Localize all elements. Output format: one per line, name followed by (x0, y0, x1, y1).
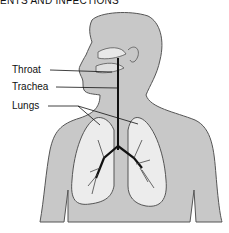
label-throat: Throat (12, 64, 41, 75)
label-trachea: Trachea (12, 81, 48, 92)
respiratory-diagram (0, 0, 229, 233)
label-lungs: Lungs (12, 100, 39, 111)
